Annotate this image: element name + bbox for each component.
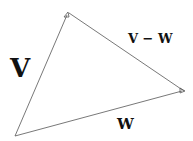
vector-v-minus-w-line [69,13,184,91]
vector-w-line [15,91,182,136]
label-v-minus-w: V − W [128,32,173,45]
label-w: W [117,117,134,132]
arrowhead-w-icon [180,88,185,93]
label-v: V [10,55,30,81]
